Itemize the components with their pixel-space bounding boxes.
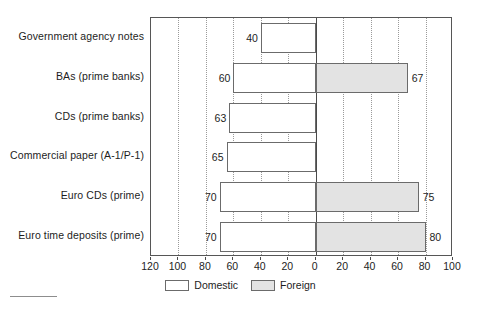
bar-chart: Government agency notesBAs (prime banks)… (0, 0, 481, 310)
gridline (343, 18, 344, 255)
bar-value-label: 60 (208, 63, 230, 93)
legend-swatch-icon (251, 280, 275, 291)
gridline (206, 18, 207, 255)
bar-domestic (233, 63, 315, 93)
bar-domestic (227, 142, 316, 172)
category-label: Euro time deposits (prime) (18, 230, 144, 241)
bar-foreign (316, 63, 408, 93)
x-axis-tick-label: 80 (419, 260, 431, 272)
x-axis-tick-label: 40 (254, 260, 266, 272)
x-axis-tick-label: 100 (443, 260, 461, 272)
x-axis-tick-label: 40 (364, 260, 376, 272)
gridline (426, 18, 427, 255)
footer-rule (10, 296, 57, 297)
x-axis-tick-label: 60 (391, 260, 403, 272)
bar-domestic (229, 103, 315, 133)
bar-domestic (220, 222, 316, 252)
gridline (178, 18, 179, 255)
x-axis-tick-label: 120 (141, 260, 159, 272)
legend-swatch-icon (165, 280, 189, 291)
bar-value-label: 65 (202, 142, 224, 172)
plot-area: 406063657070677580 (150, 17, 452, 256)
category-label: Commercial paper (A-1/P-1) (10, 150, 144, 161)
bar-value-label: 40 (236, 23, 258, 53)
bar-value-label: 70 (195, 222, 217, 252)
zero-axis-line (316, 18, 317, 255)
category-label: BAs (prime banks) (56, 71, 144, 82)
gridline (288, 18, 289, 255)
x-axis: 12010080604020020406080100 (150, 257, 452, 273)
bar-foreign (316, 182, 419, 212)
x-axis-tick-label: 20 (281, 260, 293, 272)
bar-value-label: 70 (195, 182, 217, 212)
x-axis-tick-label: 0 (312, 260, 318, 272)
category-label: Euro CDs (prime) (61, 190, 144, 201)
gridline (261, 18, 262, 255)
x-axis-tick-label: 100 (169, 260, 187, 272)
gridline (233, 18, 234, 255)
legend: DomesticForeign (0, 280, 481, 291)
legend-label: Domestic (194, 280, 238, 291)
x-axis-tick-label: 20 (336, 260, 348, 272)
bar-value-label: 67 (412, 63, 436, 93)
legend-item-foreign: Foreign (251, 280, 316, 291)
legend-item-domestic: Domestic (165, 280, 238, 291)
x-axis-tick-label: 60 (227, 260, 239, 272)
gridline (398, 18, 399, 255)
bar-value-label: 80 (430, 222, 454, 252)
bar-value-label: 63 (204, 103, 226, 133)
legend-label: Foreign (280, 280, 316, 291)
x-axis-tick-label: 80 (199, 260, 211, 272)
bar-domestic (220, 182, 316, 212)
category-axis-labels: Government agency notesBAs (prime banks)… (0, 17, 144, 256)
bar-value-label: 75 (423, 182, 447, 212)
category-label: CDs (prime banks) (55, 111, 144, 122)
category-label: Government agency notes (19, 31, 144, 42)
gridline (371, 18, 372, 255)
bar-foreign (316, 222, 426, 252)
bar-domestic (261, 23, 316, 53)
